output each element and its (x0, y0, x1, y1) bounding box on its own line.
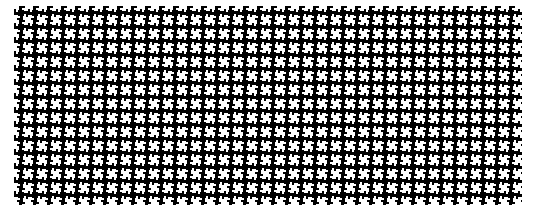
pattern-fill (14, 6, 522, 205)
pattern-svg (14, 6, 522, 205)
pinwheel-pattern-image (14, 6, 522, 205)
